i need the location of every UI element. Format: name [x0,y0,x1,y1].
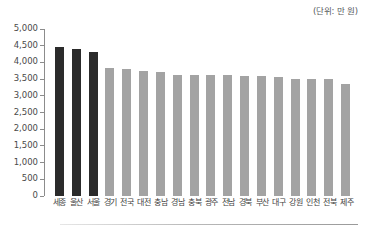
plot-area: 05001,0001,5002,0002,5003,0003,5004,0004… [44,29,358,196]
y-tick-mark [40,45,44,46]
y-tick-mark [40,162,44,163]
bar [341,84,350,196]
x-axis-label: 부산 [254,198,271,208]
x-axis-label: 대전 [135,198,152,208]
bar-slot [320,29,337,196]
bar-slot [202,29,219,196]
bar [105,68,114,196]
x-axis-label: 울산 [68,198,85,208]
x-axis-label: 충남 [152,198,169,208]
x-axis-label: 인천 [304,198,321,208]
bar [156,72,165,196]
y-tick-mark [40,62,44,63]
x-axis-label: 제주 [338,198,355,208]
x-axis-label: 경기 [102,198,119,208]
y-tick-label: 1,500 [14,140,38,151]
bar [55,47,64,196]
y-tick-label: 0 [33,190,38,201]
bar-slot [118,29,135,196]
y-tick-mark [40,112,44,113]
bar-slot [219,29,236,196]
y-tick-label: 4,500 [14,40,38,51]
bar-chart: (단위: 만 원) 05001,0001,5002,0002,5003,0003… [0,0,366,234]
bar [206,75,215,196]
x-axis-label: 전북 [321,198,338,208]
bar [89,52,98,196]
bar [257,76,266,196]
x-axis-label: 경남 [169,198,186,208]
y-tick-label: 3,500 [14,73,38,84]
bar-slot [85,29,102,196]
bar-slot [152,29,169,196]
bar-slot [287,29,304,196]
bar-slot [253,29,270,196]
bar-slot [135,29,152,196]
bar-slot [68,29,85,196]
y-tick-mark [40,145,44,146]
bar-slot [186,29,203,196]
y-tick-label: 5,000 [14,23,38,34]
bar-slot [169,29,186,196]
bar [190,75,199,196]
bottom-divider [60,224,358,225]
x-axis-label: 서울 [85,198,102,208]
x-axis-label: 강원 [287,198,304,208]
x-axis-label: 대구 [271,198,288,208]
y-tick-mark [40,179,44,180]
bar [274,77,283,196]
bar [72,49,81,196]
x-axis-label: 충북 [186,198,203,208]
bar-slot [337,29,354,196]
y-tick-label: 2,500 [14,107,38,118]
bar [307,79,316,196]
bar-slot [51,29,68,196]
x-axis-label: 광주 [203,198,220,208]
bar [173,75,182,196]
bar-slot [303,29,320,196]
y-tick-mark [40,29,44,30]
y-tick-mark [40,196,44,197]
x-axis-label: 경북 [237,198,254,208]
bar-slot [101,29,118,196]
y-tick-label: 1,000 [14,157,38,168]
bar [223,75,232,196]
y-tick-mark [40,95,44,96]
bars-layer [45,29,358,196]
bar [291,79,300,196]
bar [324,79,333,196]
y-tick-label: 500 [22,173,38,184]
bar [122,69,131,196]
x-axis-labels: 세종울산서울경기전국대전충남경남충북광주전남경북부산대구강원인천전북제주 [45,198,359,208]
y-tick-label: 2,000 [14,123,38,134]
x-axis-label: 세종 [51,198,68,208]
y-tick-label: 4,000 [14,56,38,67]
y-tick-mark [40,79,44,80]
bar-slot [270,29,287,196]
unit-caption: (단위: 만 원) [313,4,358,16]
bar [240,76,249,196]
bar-slot [236,29,253,196]
y-tick-label: 3,000 [14,90,38,101]
y-tick-mark [40,129,44,130]
x-axis-label: 전국 [119,198,136,208]
x-axis-label: 전남 [220,198,237,208]
bar [139,71,148,196]
